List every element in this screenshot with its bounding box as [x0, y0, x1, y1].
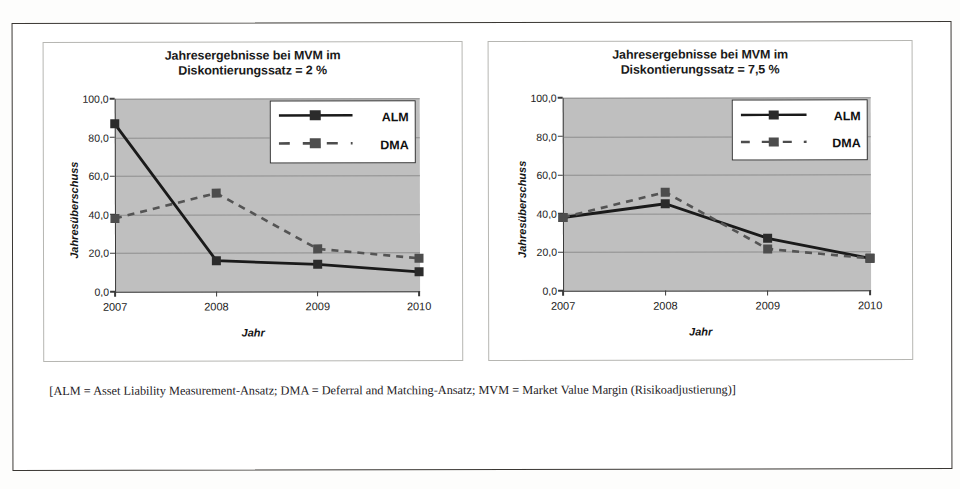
y-tick-mark [558, 136, 563, 137]
y-axis-title-left: Jahresüberschuss [68, 162, 80, 259]
series-layer-right [489, 41, 915, 362]
y-tick-label: 80,0 [65, 132, 109, 142]
legend-entry-alm: ALM [733, 103, 867, 129]
legend-entry-alm: ALM [271, 104, 415, 130]
charts-row: Jahresergebnisse bei MVM im Diskontierun… [31, 40, 934, 364]
data-point-marker [313, 244, 322, 253]
chart-panel-right: Jahresergebnisse bei MVM im Diskontierun… [488, 40, 914, 361]
legend-entry-dma: DMA [271, 132, 415, 158]
x-axis-title-right: Jahr [489, 325, 912, 338]
x-tick-mark [562, 291, 563, 296]
series-layer-left [44, 42, 465, 363]
legend-label-dma: DMA [832, 136, 860, 150]
x-tick-mark [216, 292, 217, 297]
legend-left: ALM DMA [270, 100, 416, 163]
y-tick-label: 0,0 [65, 287, 109, 297]
data-point-marker [415, 267, 424, 276]
legend-marker-alm-icon [279, 108, 353, 126]
x-axis-title-left: Jahr [44, 326, 462, 339]
plot-wrap-right: ALM DMA 0,020,040,060,080,0100,020072008… [489, 41, 913, 360]
y-tick-mark [110, 175, 115, 176]
plot-wrap-left: ALM DMA 0,020,040,060,080,0100,020072008… [44, 42, 463, 361]
data-point-marker [558, 213, 567, 222]
legend-label-dma: DMA [380, 138, 408, 152]
data-point-marker [110, 119, 119, 128]
x-tick-label: 2007 [85, 301, 145, 313]
y-tick-label: 100,0 [65, 94, 109, 104]
data-point-marker [415, 254, 424, 263]
x-tick-mark [767, 290, 768, 295]
x-tick-mark [418, 291, 419, 296]
data-point-marker [313, 260, 322, 269]
data-point-marker [661, 199, 670, 208]
y-tick-label: 80,0 [513, 131, 557, 141]
legend-marker-dma-icon [279, 136, 353, 154]
legend-marker-alm-icon [741, 107, 807, 125]
legend-marker-dma-icon [741, 134, 807, 152]
data-point-marker [866, 254, 875, 263]
figure-frame: Jahresergebnisse bei MVM im Diskontierun… [12, 21, 953, 471]
x-tick-label: 2008 [186, 300, 246, 312]
x-tick-label: 2009 [738, 299, 798, 311]
legend-label-alm: ALM [382, 110, 409, 124]
data-point-marker [763, 244, 772, 253]
data-point-marker [212, 256, 221, 265]
y-tick-mark [110, 137, 115, 138]
x-tick-mark [665, 291, 666, 296]
legend-entry-dma: DMA [733, 130, 867, 156]
y-tick-mark [558, 252, 563, 253]
y-tick-mark [558, 97, 563, 98]
y-tick-mark [110, 214, 115, 215]
scanned-page: Jahresergebnisse bei MVM im Diskontierun… [0, 0, 960, 489]
y-tick-mark [110, 252, 115, 253]
y-tick-mark [558, 174, 563, 175]
legend-label-alm: ALM [834, 109, 861, 123]
x-tick-label: 2010 [389, 300, 449, 312]
figure-caption: [ALM = Asset Liability Measurement-Ansat… [49, 382, 919, 399]
series-line-alm [563, 203, 870, 259]
x-tick-label: 2007 [533, 300, 593, 312]
chart-panel-left: Jahresergebnisse bei MVM im Diskontierun… [43, 41, 464, 362]
series-line-dma [115, 193, 419, 259]
data-point-marker [661, 188, 670, 197]
x-tick-mark [114, 292, 115, 297]
y-tick-mark [558, 213, 563, 214]
x-tick-label: 2008 [635, 300, 695, 312]
legend-right: ALM DMA [732, 99, 868, 160]
x-tick-label: 2009 [288, 300, 348, 312]
data-point-marker [110, 214, 119, 223]
y-tick-label: 0,0 [513, 286, 557, 296]
y-tick-mark [110, 98, 115, 99]
data-point-marker [212, 189, 221, 198]
y-axis-title-right: Jahresüberschuss [516, 161, 528, 258]
data-point-marker [763, 234, 772, 243]
x-tick-mark [317, 291, 318, 296]
y-tick-label: 100,0 [513, 93, 557, 103]
x-tick-mark [869, 290, 870, 295]
x-tick-label: 2010 [840, 299, 900, 311]
